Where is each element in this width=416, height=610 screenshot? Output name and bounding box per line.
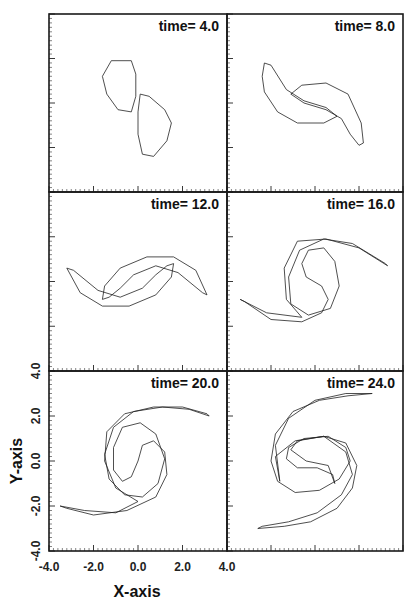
vortex-contour [240,239,387,322]
y-tick-label: 4.0 [29,362,43,379]
vortex-figure: time= 4.0time= 8.0time= 12.0time= 16.0ti… [0,0,416,610]
panel-frame [227,14,403,192]
panel-frame [49,192,227,371]
panel: time= 20.0 [49,371,227,551]
y-axis-title: Y-axis [8,438,25,484]
x-tick-labels: -4.0 -2.0 0.0 2.0 4.0 [39,560,236,574]
panel-grid: time= 4.0time= 8.0time= 12.0time= 16.0ti… [49,14,403,551]
panel: time= 16.0 [227,192,403,371]
panel-frame [227,192,403,371]
vortex-contour [102,61,135,112]
x-tick-label: 4.0 [219,560,236,574]
y-tick-labels: -4.0 -2.0 0.0 2.0 4.0 [29,362,43,561]
panel: time= 8.0 [227,14,403,192]
y-tick-label: 0.0 [29,452,43,469]
panel-title: time= 4.0 [159,18,220,34]
vortex-contour [67,264,174,307]
vortex-contour [258,394,372,529]
panel-title: time= 16.0 [327,196,395,212]
panel-frame [227,371,403,551]
panel-title: time= 8.0 [335,18,396,34]
vortex-contour [262,63,337,123]
panel-frame [49,14,227,192]
panel: time= 12.0 [49,192,227,371]
y-tick-label: 2.0 [29,407,43,424]
vortex-contour [291,83,364,145]
vortex-contour [60,407,209,515]
panel-title: time= 20.0 [151,375,219,391]
x-tick-label: 2.0 [174,560,191,574]
y-tick-label: -4.0 [29,540,43,561]
x-axis-title: X-axis [113,583,160,600]
vortex-contour [102,257,207,300]
x-tick-label: 0.0 [130,560,147,574]
x-tick-label: -2.0 [83,560,104,574]
vortex-contour [138,94,171,156]
panel-title: time= 24.0 [327,375,395,391]
panel: time= 24.0 [227,371,403,551]
panel: time= 4.0 [49,14,227,192]
y-tick-label: -2.0 [29,495,43,516]
panel-title: time= 12.0 [151,196,219,212]
